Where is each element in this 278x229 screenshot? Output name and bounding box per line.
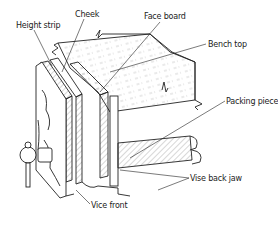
label-bench-top: Bench top [208, 40, 247, 49]
packing-piece-shape [118, 136, 201, 168]
vise-diagram: Height strip Cheek Face board Bench top … [0, 0, 278, 229]
label-height-strip: Height strip [16, 21, 60, 30]
label-vise-back-jaw: Vise back jaw [190, 174, 242, 183]
label-vice-front: Vice front [91, 201, 127, 210]
label-face-board: Face board [144, 12, 186, 21]
label-packing-piece: Packing piece [226, 97, 278, 106]
vise-illustration [0, 0, 278, 229]
label-cheek: Cheek [75, 10, 99, 19]
